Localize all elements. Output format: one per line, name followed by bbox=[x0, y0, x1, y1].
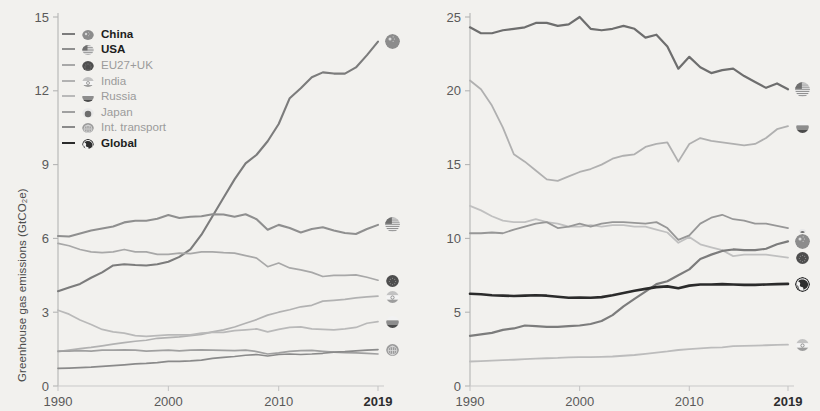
y-tick-label: 9 bbox=[42, 157, 49, 172]
end-marker-flag-usa-icon bbox=[385, 217, 400, 232]
series-line-india bbox=[470, 345, 788, 362]
legend-item-china[interactable]: China bbox=[62, 26, 166, 42]
end-marker-flag-eu-icon bbox=[796, 251, 809, 264]
flag-russia-icon bbox=[82, 90, 94, 102]
flag-global-icon bbox=[82, 137, 94, 149]
series-line-india bbox=[58, 296, 378, 351]
legend-item-eu[interactable]: EU27+UK bbox=[62, 57, 166, 73]
series-line-russia bbox=[58, 310, 378, 336]
series-line-global bbox=[470, 284, 788, 298]
flag-usa-icon bbox=[82, 43, 94, 55]
end-marker-flag-india-icon bbox=[796, 338, 809, 351]
legend-item-russia[interactable]: Russia bbox=[62, 88, 166, 104]
legend-label: Global bbox=[101, 137, 137, 149]
y-tick-label: 25 bbox=[447, 10, 461, 25]
end-marker-flag-transport-icon bbox=[386, 343, 399, 356]
end-marker-flag-usa-icon bbox=[795, 82, 810, 97]
legend-label: Russia bbox=[101, 90, 136, 102]
series-line-eu bbox=[58, 243, 378, 280]
y-tick-label: 15 bbox=[447, 157, 461, 172]
legend-line-swatch bbox=[62, 95, 75, 97]
chart-legend: ChinaUSAEU27+UKIndiaRussiaJapanInt. tran… bbox=[62, 26, 166, 151]
legend-label: India bbox=[101, 75, 126, 87]
legend-label: Int. transport bbox=[101, 121, 166, 133]
series-line-japan bbox=[470, 215, 788, 240]
flag-transport-icon bbox=[82, 121, 94, 133]
flag-japan-icon bbox=[82, 106, 94, 118]
end-marker-flag-eu-icon bbox=[386, 274, 399, 287]
chart-panel-per-capita: Per capita emissions (tCO₂e/capita) 0510… bbox=[410, 0, 820, 411]
end-marker-flag-russia-icon bbox=[796, 120, 809, 133]
end-marker-flag-china-icon bbox=[385, 34, 400, 49]
legend-item-transport[interactable]: Int. transport bbox=[62, 120, 166, 136]
end-marker-flag-global-icon bbox=[795, 277, 810, 292]
y-tick-label: 12 bbox=[35, 83, 49, 98]
legend-item-india[interactable]: India bbox=[62, 73, 166, 89]
legend-line-swatch bbox=[62, 126, 75, 128]
x-tick-label: 2010 bbox=[675, 394, 704, 409]
series-line-russia bbox=[470, 80, 788, 180]
legend-item-global[interactable]: Global bbox=[62, 135, 166, 151]
y-tick-label: 3 bbox=[42, 305, 49, 320]
legend-line-swatch bbox=[62, 64, 75, 66]
y-tick-label: 5 bbox=[454, 305, 461, 320]
legend-label: EU27+UK bbox=[101, 59, 153, 71]
end-marker-flag-russia-icon bbox=[386, 315, 399, 328]
legend-label: Japan bbox=[101, 106, 133, 118]
y-tick-label: 6 bbox=[42, 231, 49, 246]
figure-root: Greenhouse gas emissions (GtCO₂e) 036912… bbox=[0, 0, 820, 411]
x-tick-label: 2019 bbox=[774, 394, 803, 409]
legend-line-swatch bbox=[62, 80, 75, 82]
y-tick-label: 15 bbox=[35, 10, 49, 25]
x-tick-label: 2010 bbox=[264, 394, 293, 409]
legend-label: China bbox=[101, 28, 133, 40]
legend-item-japan[interactable]: Japan bbox=[62, 104, 166, 120]
legend-line-swatch bbox=[62, 142, 75, 144]
y-tick-label: 20 bbox=[447, 83, 461, 98]
x-tick-label: 2000 bbox=[565, 394, 594, 409]
x-tick-label: 1990 bbox=[44, 394, 73, 409]
end-marker-flag-india-icon bbox=[386, 290, 399, 303]
flag-india-icon bbox=[82, 75, 94, 87]
flag-china-icon bbox=[82, 28, 94, 40]
x-tick-label: 2000 bbox=[154, 394, 183, 409]
end-marker-flag-china-icon bbox=[795, 234, 810, 249]
y-tick-label: 10 bbox=[447, 231, 461, 246]
y-tick-label: 0 bbox=[42, 379, 49, 394]
series-line-usa bbox=[470, 17, 788, 89]
series-line-transport bbox=[58, 350, 378, 369]
legend-item-usa[interactable]: USA bbox=[62, 42, 166, 58]
flag-eu-icon bbox=[82, 59, 94, 71]
legend-line-swatch bbox=[62, 111, 75, 113]
series-line-usa bbox=[58, 214, 378, 236]
x-tick-label: 1990 bbox=[456, 394, 485, 409]
legend-line-swatch bbox=[62, 33, 75, 35]
y-tick-label: 0 bbox=[454, 379, 461, 394]
end-marker-flag-japan-icon bbox=[798, 224, 807, 233]
x-tick-label: 2019 bbox=[364, 394, 393, 409]
legend-line-swatch bbox=[62, 48, 75, 50]
per-capita-plot: 05101520251990200020102019 bbox=[410, 0, 820, 411]
legend-label: USA bbox=[101, 43, 125, 55]
